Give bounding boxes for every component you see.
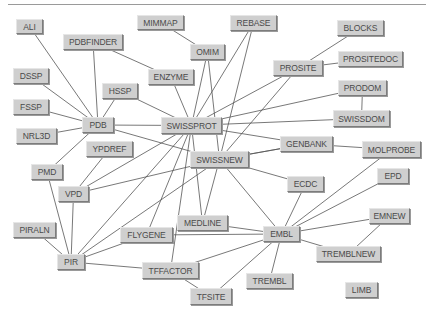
node-ypdref[interactable]: YPDREF (86, 141, 133, 157)
node-ecdc[interactable]: ECDC (287, 176, 324, 192)
edge-swissprot-medline (192, 126, 203, 224)
node-tffactor[interactable]: TFFACTOR (142, 262, 199, 279)
node-prodom[interactable]: PRODOM (338, 80, 387, 96)
node-ali[interactable]: ALI (16, 19, 43, 34)
node-emnew[interactable]: EMNEW (369, 208, 410, 224)
node-epd[interactable]: EPD (377, 168, 409, 184)
node-limb[interactable]: LIMB (345, 282, 378, 298)
node-swissnew[interactable]: SWISSNEW (190, 151, 249, 168)
node-prositedoc[interactable]: PROSITEDOC (338, 51, 403, 67)
node-pdb[interactable]: PDB (82, 117, 114, 133)
edge-vpd-pir (71, 194, 74, 262)
node-blocks[interactable]: BLOCKS (337, 20, 384, 36)
node-trembl[interactable]: TREMBL (246, 273, 293, 289)
node-pir[interactable]: PIR (57, 254, 85, 270)
node-enzyme[interactable]: ENZYME (148, 69, 194, 85)
node-genbank[interactable]: GENBANK (280, 136, 333, 152)
node-molprobe[interactable]: MOLPROBE (362, 141, 421, 158)
node-vpd[interactable]: VPD (58, 186, 89, 202)
edge-pdbfinder-pdb (93, 42, 98, 125)
node-pmd[interactable]: PMD (31, 164, 63, 180)
edge-omim-swissnew (208, 52, 220, 160)
node-nrl3d[interactable]: NRL3D (16, 128, 57, 144)
node-dssp[interactable]: DSSP (13, 68, 49, 84)
node-tremblnew[interactable]: TREMBLNEW (316, 246, 381, 262)
node-swissdom[interactable]: SWISSDOM (333, 110, 390, 127)
node-prosite[interactable]: PROSITE (273, 60, 323, 76)
node-hssp[interactable]: HSSP (102, 83, 138, 99)
node-fssp[interactable]: FSSP (13, 99, 49, 115)
edge-swissprot-tffactor (171, 126, 192, 271)
node-rebase[interactable]: REBASE (230, 15, 277, 31)
node-embl[interactable]: EMBL (263, 226, 300, 242)
node-omim[interactable]: OMIM (190, 44, 225, 60)
node-flygene[interactable]: FLYGENE (120, 227, 173, 243)
node-swissprot[interactable]: SWISSPROT (161, 117, 222, 134)
edge-swissprot-vpd (74, 126, 192, 195)
node-tfsite[interactable]: TFSITE (190, 288, 232, 305)
node-piraln[interactable]: PIRALN (13, 222, 56, 238)
edge-swissnew-embl (220, 160, 282, 235)
node-mimmap[interactable]: MIMMAP (137, 15, 184, 30)
node-pdbfinder[interactable]: PDBFINDER (63, 34, 123, 50)
edge-rebase-swissprot (192, 23, 254, 126)
edge-omim-swissprot (192, 52, 208, 126)
node-medline[interactable]: MEDLINE (177, 215, 228, 231)
